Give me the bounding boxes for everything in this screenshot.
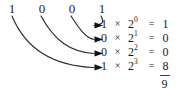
- equals-sign: =: [147, 59, 156, 73]
- equation-coefficient: 0: [100, 45, 108, 59]
- equation-exponent: 0: [134, 15, 138, 24]
- equation-exponent: 2: [134, 43, 138, 52]
- equation-coefficient: 1: [100, 59, 108, 73]
- equation-coefficient: 1: [100, 17, 108, 31]
- multiplication-sign: ×: [113, 45, 122, 59]
- equals-sign: =: [147, 17, 156, 31]
- binary-conversion-figure: 1 0 0 1 1 × 20 = 1 0 × 21 =: [0, 0, 184, 98]
- equation-result: 0: [161, 45, 170, 59]
- equation-exponent: 1: [134, 29, 138, 38]
- equation-result: 1: [161, 17, 170, 31]
- equation-power: 23: [128, 59, 138, 73]
- sum-rule: [160, 75, 170, 76]
- equation-result: 8: [161, 59, 170, 73]
- multiplication-sign: ×: [113, 59, 122, 73]
- equals-sign: =: [147, 31, 156, 45]
- mapping-arrows: [0, 0, 184, 98]
- equals-sign: =: [147, 45, 156, 59]
- equation-coefficient: 0: [100, 31, 108, 45]
- multiplication-sign: ×: [113, 31, 122, 45]
- equation-result: 0: [161, 31, 170, 45]
- multiplication-sign: ×: [113, 17, 122, 31]
- sum-total: 9: [159, 77, 170, 91]
- arrow-curve-digit1: [12, 16, 94, 68]
- arrow-curve-digit3: [71, 16, 94, 40]
- equation-exponent: 3: [134, 57, 138, 66]
